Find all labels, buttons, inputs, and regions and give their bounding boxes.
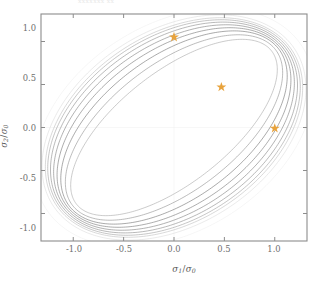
x-axis-label-denom-sub: 0	[192, 267, 196, 274]
y-axis-label-denom-sub: 0	[2, 125, 9, 129]
y-axis-label-var: σ	[0, 142, 9, 148]
xtick-label-0: -1.0	[66, 244, 82, 254]
y-axis-label-denom-var: σ	[0, 128, 9, 134]
figure-container: xxxxxxx xx -1.0 -0.5 0.0 0.5 1.0	[0, 0, 331, 281]
xtick-label-4: 1.0	[267, 244, 280, 254]
ytick-label-4: -1.0	[11, 223, 36, 233]
ytick-label-2: 0.0	[14, 123, 36, 133]
ytick-label-1: 0.5	[14, 73, 36, 83]
ytick-label-0: 1.0	[14, 23, 36, 33]
ytick-label-3: -0.5	[11, 173, 36, 183]
x-axis-label: σ1/σ0	[172, 264, 195, 274]
xtick-label-3: 0.5	[217, 244, 230, 254]
y-axis-label: σ2/σ0	[0, 125, 9, 148]
xtick-label-2: 0.0	[167, 244, 180, 254]
y-axis-label-slash: /	[0, 134, 9, 138]
plot-canvas	[0, 0, 331, 281]
xtick-label-1: -0.5	[116, 244, 132, 254]
y-axis-label-sub: 2	[2, 138, 9, 142]
